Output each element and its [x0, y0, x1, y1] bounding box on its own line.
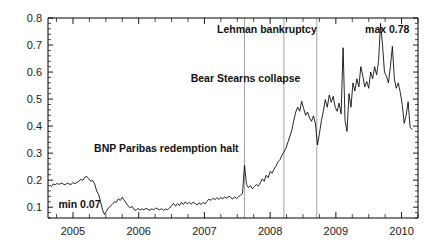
chart-annotation-label: max 0.78 [365, 23, 410, 35]
y-tick-label: 0.4 [27, 120, 42, 132]
series-line [51, 23, 412, 214]
y-tick-label: 0.6 [27, 66, 42, 78]
x-axis-tick-labels: 200520062007200820092010 [61, 225, 414, 237]
y-tick-label: 0.8 [27, 12, 42, 24]
chart-annotation-label: min 0.07 [59, 198, 101, 210]
chart-annotation-label: Bear Stearns collapse [191, 72, 301, 84]
y-tick-label: 0.7 [27, 39, 42, 51]
x-tick-label: 2005 [61, 225, 85, 237]
y-tick-label: 0.5 [27, 93, 42, 105]
x-axis-ticks [57, 18, 418, 218]
chart-annotations: Lehman bankruptcymax 0.78Bear Stearns co… [59, 23, 410, 210]
chart-axes [48, 18, 418, 218]
y-axis-ticks [48, 18, 418, 218]
y-tick-label: 0.1 [27, 201, 42, 213]
chart-container: 0.10.20.30.40.50.60.70.8 200520062007200… [0, 0, 428, 244]
time-series-chart: 0.10.20.30.40.50.60.70.8 200520062007200… [0, 0, 428, 244]
chart-annotation-label: Lehman bankruptcy [217, 23, 317, 35]
y-tick-label: 0.3 [27, 147, 42, 159]
x-tick-label: 2010 [389, 225, 413, 237]
x-tick-label: 2009 [324, 225, 348, 237]
y-tick-label: 0.2 [27, 174, 42, 186]
y-axis-tick-labels: 0.10.20.30.40.50.60.70.8 [27, 12, 42, 213]
x-tick-label: 2008 [258, 225, 282, 237]
event-marker-lines [245, 18, 317, 218]
chart-annotation-label: BNP Paribas redemption halt [94, 142, 239, 154]
x-tick-label: 2006 [126, 225, 150, 237]
x-tick-label: 2007 [192, 225, 216, 237]
